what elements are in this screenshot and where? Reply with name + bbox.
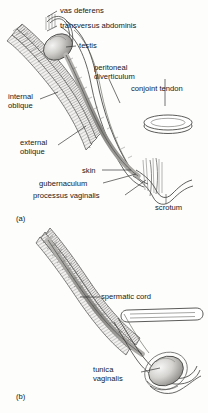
- panel-b-drawing: [36, 228, 203, 397]
- label-skin: skin: [82, 166, 96, 175]
- panel-a-id: (a): [16, 214, 25, 223]
- label-scrotum: scrotum: [155, 203, 182, 212]
- label-vas-deferens: vas deferens: [60, 6, 104, 15]
- label-spermatic-cord: spermatic cord: [101, 292, 151, 301]
- anatomical-figure: vas deferens transversus abdominis testi…: [0, 0, 208, 413]
- label-tunica-vaginalis-line1: tunica: [93, 365, 113, 374]
- label-peritoneal-diverticulum-line2: diverticulum: [94, 72, 135, 81]
- panel-a-drawing: [7, 11, 193, 204]
- panel-b-id: (b): [16, 392, 25, 401]
- label-conjoint-tendon: conjoint tendon: [131, 84, 183, 93]
- label-processus-vaginalis: processus vaginalis: [33, 191, 100, 200]
- label-external-oblique-line2: oblique: [20, 147, 45, 156]
- label-tunica-vaginalis-line2: vaginalis: [93, 374, 123, 383]
- label-transversus-abdominis: transversus abdominis: [60, 21, 136, 30]
- conjoint-tendon-ring: [144, 115, 192, 134]
- label-gubernaculum: gubernaculum: [39, 179, 87, 188]
- label-external-oblique-line1: external: [20, 138, 47, 147]
- label-internal-oblique-line1: internal: [8, 92, 33, 101]
- label-testis: testis: [79, 41, 97, 50]
- label-peritoneal-diverticulum-line1: peritoneal: [94, 63, 128, 72]
- label-internal-oblique-line2: oblique: [8, 101, 33, 110]
- obliterated-processus-tube: [121, 308, 203, 322]
